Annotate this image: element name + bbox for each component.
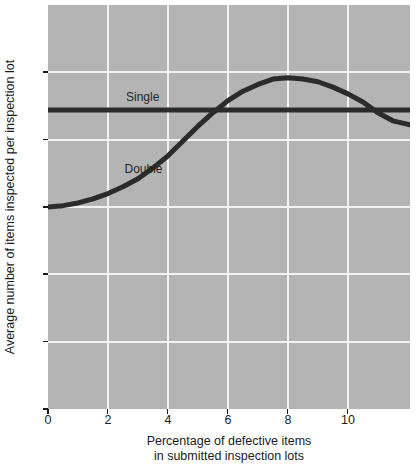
- x-axis-tick-label: 2: [93, 414, 123, 427]
- x-axis-tick-mark: [287, 409, 289, 414]
- double-sampling-curve: [48, 78, 410, 207]
- x-axis-tick-mark: [167, 409, 169, 414]
- chart-lines: [48, 5, 410, 409]
- x-axis-tick-label: 8: [273, 414, 303, 427]
- series-label-double: Double: [124, 163, 162, 175]
- x-axis-tick-mark: [107, 409, 109, 414]
- x-axis-title-line2: in submitted inspection lots: [48, 449, 410, 464]
- x-axis-tick-mark: [347, 409, 349, 414]
- series-label-single: Single: [126, 91, 159, 103]
- x-axis-tick-label: 4: [153, 414, 183, 427]
- x-axis-tick-label: 10: [333, 414, 363, 427]
- x-axis-title: Percentage of defective items in submitt…: [48, 434, 410, 464]
- x-axis-tick-mark: [227, 409, 229, 414]
- x-axis-tick-label: 6: [213, 414, 243, 427]
- x-axis-tick-mark: [47, 409, 49, 414]
- y-axis-title: Average number of items inspected per in…: [2, 5, 18, 409]
- chart-figure: Average number of items inspected per in…: [0, 0, 419, 469]
- x-axis-tick-label: 0: [33, 414, 63, 427]
- x-axis-title-line1: Percentage of defective items: [48, 434, 410, 449]
- plot-area: Single Double: [48, 5, 410, 409]
